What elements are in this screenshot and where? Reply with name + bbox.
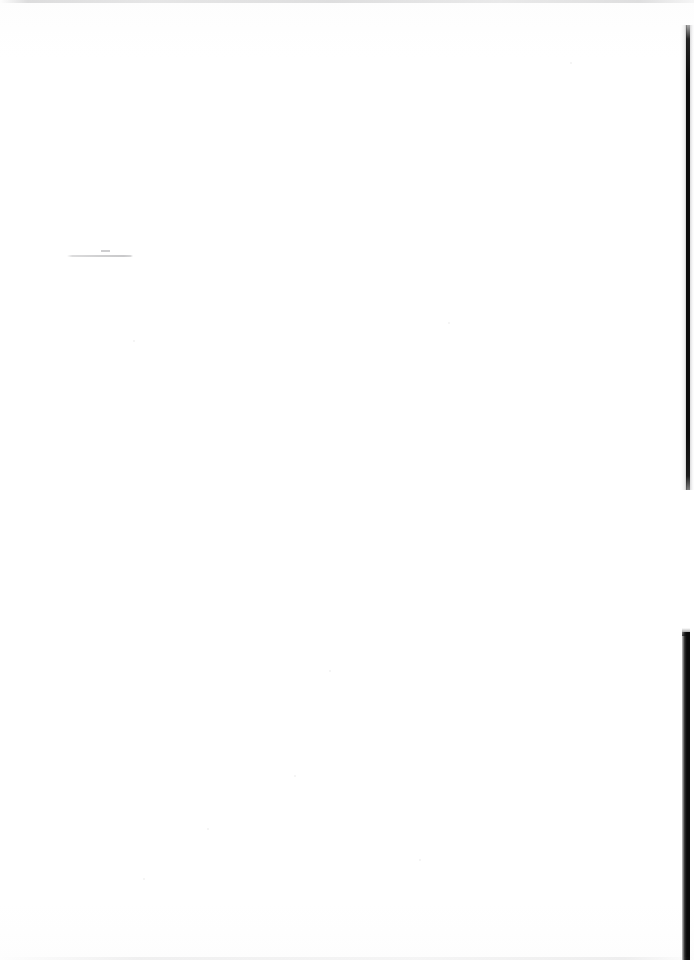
scan-speck: [207, 828, 209, 830]
scan-speck: [133, 340, 135, 342]
scan-speck: [329, 670, 331, 672]
scan-speck: [570, 62, 572, 64]
scan-speck: [143, 878, 145, 880]
paper-background: [0, 0, 694, 960]
scan-speck: [419, 859, 421, 861]
scan-speck: [448, 322, 450, 324]
scanned-page: [0, 0, 694, 960]
faint-dash-mark: [101, 250, 110, 252]
right-edge-paper-highlight: [690, 25, 694, 490]
top-edge-scan-line: [0, 0, 694, 3]
faint-horizontal-rule: [67, 255, 133, 257]
scan-speck: [294, 775, 296, 777]
right-edge-shadow-lower: [682, 632, 690, 960]
